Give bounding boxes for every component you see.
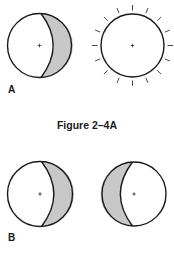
panel-label-a: A [8, 84, 15, 95]
figure-caption: Figure 2–4A [0, 119, 174, 131]
sphere-crescent-left-b [101, 162, 167, 226]
sphere-crescent-right-b [8, 162, 75, 227]
sphere-crescent-right-a [8, 14, 74, 78]
panel-label-b: B [8, 232, 15, 243]
sphere-radiating-a [92, 5, 173, 86]
